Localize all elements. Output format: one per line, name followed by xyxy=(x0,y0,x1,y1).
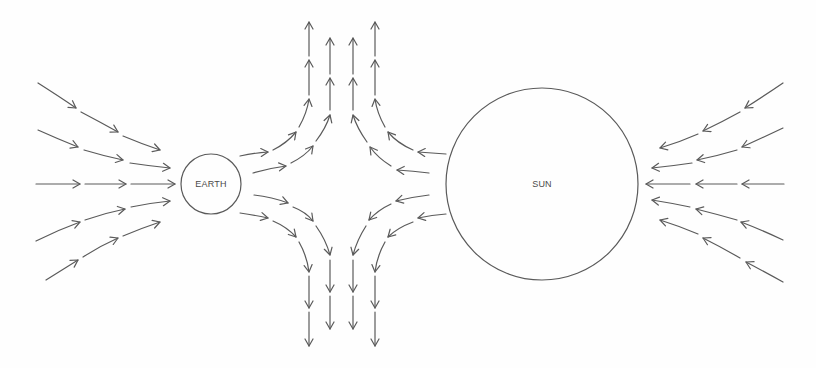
sun-label: SUN xyxy=(532,179,552,189)
flow-arrow-icon xyxy=(38,83,76,108)
flow-arrow-icon xyxy=(253,166,286,173)
earth-sun-field-diagram: EARTH SUN xyxy=(0,0,816,368)
flow-arrow-icon xyxy=(299,99,309,127)
left-inflow-to-earth-group xyxy=(36,83,175,280)
upper-outflow-from-earth-group xyxy=(240,22,330,173)
flow-arrow-icon xyxy=(273,221,296,237)
flow-arrow-icon xyxy=(85,209,125,220)
flow-arrow-icon xyxy=(369,204,391,220)
flow-arrow-icon xyxy=(291,146,313,163)
flow-arrow-icon xyxy=(123,222,160,236)
field-lines-canvas xyxy=(0,0,816,368)
flow-arrow-icon xyxy=(703,238,740,258)
flow-arrow-icon xyxy=(660,220,698,234)
earth-label: EARTH xyxy=(195,179,226,189)
right-inflow-to-sun-group xyxy=(646,83,784,282)
flow-arrow-icon xyxy=(388,132,413,150)
flow-arrow-icon xyxy=(375,99,385,127)
flow-arrow-icon xyxy=(660,134,698,148)
celestial-bodies xyxy=(181,88,638,280)
flow-arrow-icon xyxy=(46,260,78,280)
flow-arrow-icon xyxy=(696,209,737,220)
flow-arrow-icon xyxy=(697,150,737,160)
flow-arrow-icon xyxy=(83,238,118,257)
flow-arrow-icon xyxy=(652,163,692,168)
flow-arrow-icon xyxy=(418,214,446,218)
flow-arrow-icon xyxy=(388,222,413,237)
flow-arrow-icon xyxy=(81,112,118,132)
flow-arrow-icon xyxy=(741,222,783,240)
flow-arrow-icon xyxy=(123,136,160,150)
flow-arrow-icon xyxy=(652,200,690,207)
flow-arrow-icon xyxy=(746,262,783,282)
flow-arrow-icon xyxy=(316,226,330,255)
flow-lines xyxy=(36,22,784,346)
flow-arrow-icon xyxy=(240,152,268,156)
flow-arrow-icon xyxy=(254,195,288,203)
upper-outflow-from-sun-group xyxy=(353,22,446,173)
flow-arrow-icon xyxy=(745,83,783,108)
flow-arrow-icon xyxy=(316,115,330,141)
flow-arrow-icon xyxy=(299,242,309,272)
flow-arrow-icon xyxy=(130,163,170,168)
flow-arrow-icon xyxy=(375,242,385,272)
flow-arrow-icon xyxy=(84,150,123,160)
flow-arrow-icon xyxy=(293,207,313,221)
flow-arrow-icon xyxy=(131,201,170,207)
flow-arrow-icon xyxy=(36,222,80,241)
flow-arrow-icon xyxy=(396,195,429,201)
flow-arrow-icon xyxy=(273,132,296,150)
flow-arrow-icon xyxy=(742,128,783,147)
lower-outflow-from-earth-group xyxy=(240,195,330,346)
flow-arrow-icon xyxy=(703,112,740,131)
flow-arrow-icon xyxy=(353,115,367,142)
lower-outflow-from-sun-group xyxy=(353,195,446,346)
flow-arrow-icon xyxy=(397,170,429,173)
flow-arrow-icon xyxy=(240,213,268,218)
flow-arrow-icon xyxy=(370,147,391,166)
flow-arrow-icon xyxy=(418,152,446,154)
flow-arrow-icon xyxy=(353,226,366,255)
flow-arrow-icon xyxy=(38,130,78,147)
